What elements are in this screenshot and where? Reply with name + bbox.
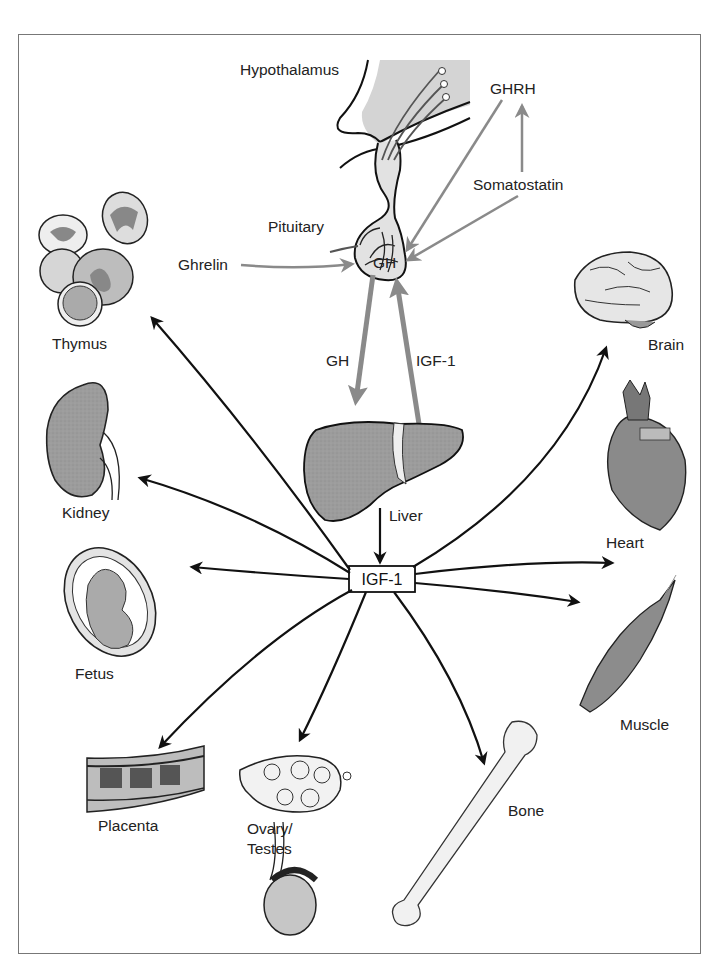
bone-illustration [392,721,537,925]
igf1-to-heart-arrow [415,562,612,574]
igf1-to-muscle-arrow [415,583,578,602]
pituitary-label: Pituitary [268,218,324,235]
gh-igf1-axis-diagram: Hypothalamus Pituitary GHRH Somatostatin… [0,0,723,972]
ghrelin-label: Ghrelin [178,256,228,273]
heart-illustration [608,380,686,530]
hypothalamus-pituitary-illustration [330,60,470,280]
kidney-label: Kidney [62,504,110,521]
igf1-to-bone-arrow [394,592,484,763]
heart-label: Heart [606,534,645,551]
thymus-illustration [39,186,155,326]
liver-illustration [304,422,463,521]
placenta-label: Placenta [98,817,159,834]
thymus-label: Thymus [52,335,107,352]
kidney-illustration [47,383,120,500]
gh-arrow-label: GH [326,352,349,369]
ovary-label-line1: Ovary/ [247,820,293,837]
ovary-label-line2: Testes [247,840,292,857]
igf1-center-label: IGF-1 [362,571,403,588]
igf1-to-placenta-arrow [160,590,352,747]
somatostatin-label: Somatostatin [473,176,563,193]
muscle-illustration [580,575,676,712]
brain-illustration [575,252,673,328]
igf1-to-ovary-arrow [300,592,366,740]
igf1-center-node: IGF-1 [349,566,415,592]
muscle-label: Muscle [620,716,669,733]
ghrh-label: GHRH [490,80,536,97]
somatostatin-to-gh-arrow [408,196,518,260]
fetus-label: Fetus [75,665,114,682]
igf1-arrow-label: IGF-1 [416,352,456,369]
gh-pituitary-label: GH [373,254,396,271]
liver-label: Liver [389,507,423,524]
igf1-to-fetus-arrow [192,567,349,579]
ghrelin-to-gh-arrow [241,264,352,267]
gh-to-liver-arrow [356,275,373,400]
hypothalamus-label: Hypothalamus [240,61,339,78]
fetus-illustration [46,532,174,672]
brain-label: Brain [648,336,684,353]
bone-label: Bone [508,802,544,819]
placenta-illustration [87,746,204,812]
